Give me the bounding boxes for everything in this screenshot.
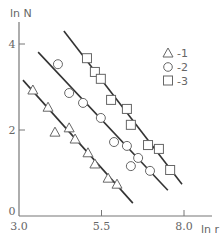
axes: 3.05.58.0 024 ln r ln N xyxy=(9,7,220,235)
circle-marker xyxy=(126,162,135,171)
legend-label-3: -3 xyxy=(177,75,188,88)
legend-label-2: -2 xyxy=(177,61,188,74)
square-marker xyxy=(154,144,163,153)
legend-item-3: -3 xyxy=(164,75,188,88)
x-ticks: 3.05.58.0 xyxy=(10,210,193,233)
circle-marker xyxy=(134,153,143,162)
x-axis-label: ln r xyxy=(201,223,220,235)
square-icon xyxy=(164,76,173,85)
square-marker xyxy=(166,165,175,174)
square-marker xyxy=(82,54,91,63)
legend-item-1: -1 xyxy=(163,47,188,60)
circle-marker xyxy=(96,113,105,122)
y-ticks: 024 xyxy=(9,38,26,218)
triangle-marker xyxy=(103,173,113,182)
triangle-marker xyxy=(50,127,60,136)
square-marker xyxy=(126,120,135,129)
circle-marker xyxy=(79,98,88,107)
y-tick-label: 4 xyxy=(9,38,16,51)
square-marker xyxy=(96,74,105,83)
circle-marker xyxy=(146,166,155,175)
circle-icon xyxy=(164,63,173,72)
chart: 3.05.58.0 024 ln r ln N -1 -2 -3 xyxy=(0,0,223,235)
triangle-icon xyxy=(163,48,173,57)
legend-item-2: -2 xyxy=(164,61,188,74)
circle-marker xyxy=(53,60,62,69)
square-marker xyxy=(144,141,153,150)
y-axis-label: ln N xyxy=(10,7,32,20)
circle-marker xyxy=(110,138,119,147)
x-tick-label: 8.0 xyxy=(175,220,193,233)
x-tick-label: 3.0 xyxy=(10,220,28,233)
square-marker xyxy=(107,95,116,104)
y-tick-label: 2 xyxy=(9,124,16,137)
circle-marker xyxy=(122,141,131,150)
y-tick-label: 0 xyxy=(9,205,16,218)
circle-marker xyxy=(65,89,74,98)
legend: -1 -2 -3 xyxy=(163,47,188,88)
square-marker xyxy=(122,104,131,113)
legend-label-1: -1 xyxy=(177,47,188,60)
x-tick-label: 5.5 xyxy=(93,220,111,233)
